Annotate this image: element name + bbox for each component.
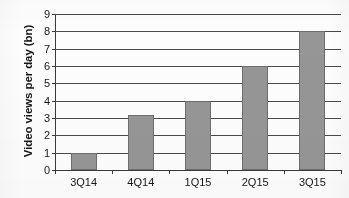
x-axis-tick-label: 3Q15 xyxy=(299,176,326,188)
x-axis-tick-label: 1Q15 xyxy=(185,176,212,188)
y-axis-tick-labels: 0123456789 xyxy=(32,14,50,170)
x-axis-tick-mark xyxy=(227,170,228,174)
bar[interactable] xyxy=(299,31,325,170)
y-axis-tick-label: 5 xyxy=(34,77,50,89)
x-axis-tick-mark xyxy=(55,170,56,174)
x-axis-tick-mark xyxy=(341,170,342,174)
x-axis-tick-label: 2Q15 xyxy=(242,176,269,188)
plot-area xyxy=(55,14,341,170)
bars-layer xyxy=(55,14,341,170)
x-axis-tick-label: 4Q14 xyxy=(127,176,154,188)
y-axis-tick-label: 2 xyxy=(34,129,50,141)
x-axis-tick-labels: 3Q144Q141Q152Q153Q15 xyxy=(55,176,341,192)
x-axis-tick-label: 3Q14 xyxy=(70,176,97,188)
y-axis-tick-label: 9 xyxy=(34,8,50,20)
y-axis-tick-label: 8 xyxy=(34,25,50,37)
y-axis-tick-label: 3 xyxy=(34,112,50,124)
bar[interactable] xyxy=(242,66,268,170)
y-axis-tick-label: 4 xyxy=(34,95,50,107)
x-axis-tick-mark xyxy=(169,170,170,174)
bar-slot xyxy=(284,14,341,170)
y-axis-tick-label: 6 xyxy=(34,60,50,72)
bar[interactable] xyxy=(128,115,154,170)
bar-chart-figure: Video views per day (bn) 0123456789 3Q14… xyxy=(0,0,349,198)
x-axis-tick-mark xyxy=(284,170,285,174)
y-axis-tick-label: 7 xyxy=(34,43,50,55)
bar[interactable] xyxy=(185,101,211,170)
x-axis-tick-mark xyxy=(112,170,113,174)
bar-slot xyxy=(227,14,284,170)
x-axis-tick-marks xyxy=(55,170,341,175)
y-axis-tick-label: 0 xyxy=(34,164,50,176)
y-axis-tick-label: 1 xyxy=(34,147,50,159)
bar-slot xyxy=(169,14,226,170)
bar-slot xyxy=(112,14,169,170)
bar[interactable] xyxy=(71,153,97,170)
bar-slot xyxy=(55,14,112,170)
